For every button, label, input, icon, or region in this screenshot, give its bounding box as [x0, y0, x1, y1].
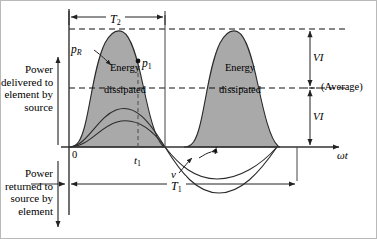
origin-label: 0: [72, 149, 77, 160]
VI-upper-label: VI: [313, 51, 323, 63]
voltage-label: v: [171, 168, 176, 180]
pR-label: pR: [71, 39, 82, 57]
t1-tick-label: t1: [134, 150, 141, 168]
power-delivered-label: Power delivered to element by source: [1, 63, 53, 113]
T2-label: T2: [106, 9, 125, 27]
power-waveform-figure: Power delivered to element by source Pow…: [0, 0, 377, 239]
omega-t-axis-label: ωt: [337, 149, 348, 161]
i-leader-line: [199, 152, 211, 158]
current-label: i: [214, 144, 217, 156]
VI-lower-label: VI: [313, 110, 323, 122]
power-returned-label: Power returned to source by element: [1, 167, 53, 217]
energy-dissipated-label-2: Energy dissipated: [212, 62, 268, 95]
average-label: (Average): [321, 81, 363, 92]
energy-dissipated-label-1: Energy dissipated: [97, 62, 153, 95]
T1-label: T1: [167, 176, 186, 194]
